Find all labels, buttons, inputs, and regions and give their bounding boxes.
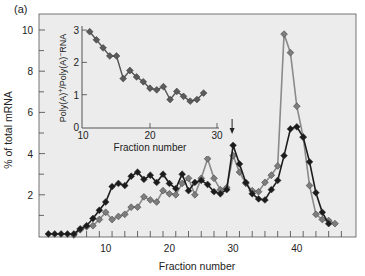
x-tick-label: 40 (291, 243, 303, 254)
y-tick-label: 4 (27, 149, 33, 160)
inset-x-tick-label: 30 (211, 130, 223, 141)
inset-x-tick-label: 10 (77, 130, 89, 141)
inset-y-tick-label: 3 (73, 25, 79, 36)
y-tick-label: 2 (27, 190, 33, 201)
inset-y-tick-label: 1 (73, 90, 79, 101)
inset-y-axis-label: Poly(A)+/Poly(A)−RNA (57, 34, 68, 123)
y-tick-label: 10 (22, 25, 34, 36)
y-tick-label: 6 (27, 107, 33, 118)
main-x-axis-label: Fraction number (159, 260, 236, 272)
main-y-axis-label: % of total mRNA (2, 91, 14, 169)
inset-y-tick-label: 2 (73, 57, 79, 68)
y-tick-label: 8 (27, 66, 33, 77)
x-tick-label: 10 (100, 243, 112, 254)
x-tick-label: 20 (164, 243, 176, 254)
inset-x-tick-label: 20 (144, 130, 156, 141)
inset-x-axis-label: Fraction number (114, 142, 187, 153)
figure: 246810 10203040 0123102030 Fraction numb… (0, 0, 365, 276)
x-tick-label: 30 (228, 243, 240, 254)
